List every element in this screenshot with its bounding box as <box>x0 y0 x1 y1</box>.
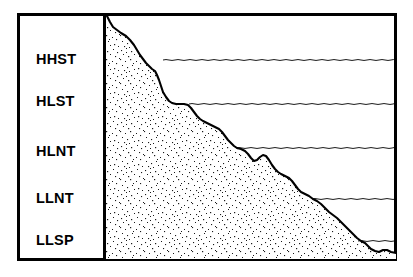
sediment-wedge-fill <box>105 16 396 259</box>
llnt-surface <box>312 199 396 200</box>
tract-label-llsp: LLSP <box>36 232 74 248</box>
hlnt-surface <box>236 148 396 149</box>
tract-label-llnt: LLNT <box>36 190 74 206</box>
hhst-surface <box>163 60 396 61</box>
hlst-surface <box>189 104 396 105</box>
systems-tract-diagram: HHST HLST HLNT LLNT LLSP <box>0 0 413 277</box>
tract-label-hlnt: HLNT <box>36 143 75 159</box>
tract-label-hhst: HHST <box>36 51 76 67</box>
systems-tract-figure: HHST HLST HLNT LLNT LLSP <box>0 0 413 277</box>
systems-tract-legend: HHST HLST HLNT LLNT LLSP <box>36 51 76 248</box>
tract-label-hlst: HLST <box>36 93 75 109</box>
